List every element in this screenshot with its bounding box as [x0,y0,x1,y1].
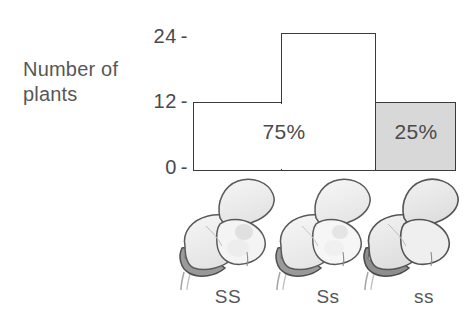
percent-label-recessive: 25% [382,120,450,144]
genotype-label-recessive: ss [382,286,466,308]
pea-flower-drawing-ss-dominant [176,176,280,290]
genotype-label-heterozygous: Ss [286,286,370,308]
y-axis-tick-12-dash: - [181,90,188,113]
genotype-label-ss-dominant: SS [186,286,270,308]
pea-flower-drawing-recessive [360,176,464,290]
y-axis-title-line-1: Number of [23,57,153,82]
y-axis-tick-24-label: 24 [154,25,177,48]
bar-heterozygous [281,33,376,171]
y-axis-tick-12: 12- [120,90,188,113]
y-axis-tick-24-dash: - [181,25,188,48]
y-axis-tick-24: 24- [120,25,188,48]
y-axis-tick-12-label: 12 [154,90,177,113]
percent-label-dominant: 75% [236,120,332,144]
genotype-distribution-figure: Number of plants 24- 12- 0- 75% 25% [0,0,475,326]
